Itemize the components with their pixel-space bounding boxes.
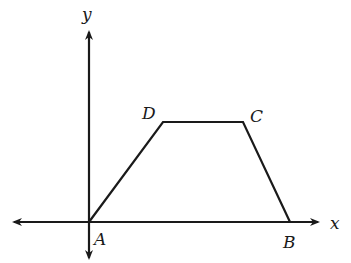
point-c-label: C bbox=[250, 106, 263, 126]
y-axis-label: y bbox=[81, 4, 92, 24]
point-b-label: B bbox=[282, 232, 296, 252]
coordinate-diagram: y x D C A B bbox=[0, 0, 351, 263]
point-a-label: A bbox=[92, 229, 106, 249]
point-d-label: D bbox=[141, 103, 156, 123]
x-axis-label: x bbox=[330, 213, 340, 233]
trapezoid-abcd bbox=[89, 122, 290, 222]
